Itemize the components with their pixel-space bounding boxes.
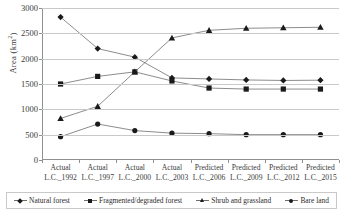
data-point-marker [95,74,100,79]
gridline [42,84,339,85]
plot-inner: 050010001500200025003000 [42,8,339,160]
x-axis-category-label: PredictedL.C._2006 [191,163,228,187]
y-axis-tick-label: 3000 [21,4,38,13]
gridline [42,109,339,110]
chart-root: Area (km2) 050010001500200025003000 Actu… [0,0,343,213]
y-axis-title: Area (km2) [7,3,21,103]
legend-item-3[interactable]: Shrub and grassland [196,196,271,205]
legend-key-mark [289,199,293,203]
x-axis-category-label: ActualL.C._1992 [42,163,79,187]
x-axis-category-label: PredictedL.C._2009 [228,163,265,187]
data-point-marker [132,128,137,133]
x-axis-category-line: Predicted [191,163,228,173]
x-axis-category-line: L.C._2006 [191,173,228,183]
x-axis-tick-mark [339,160,340,163]
y-axis-tick-mark [39,135,42,136]
chart-legend: Natural forestFragmented/degraded forest… [6,192,337,209]
legend-item-label: Fragmented/degraded forest [99,196,182,205]
y-axis-tick-label: 1000 [21,105,38,114]
data-point-marker [95,121,100,126]
data-point-marker [280,77,286,83]
gridline [42,8,339,9]
gridline [42,135,339,136]
x-axis-category-line: Actual [116,163,153,173]
data-point-marker [318,86,323,91]
y-axis-tick-label: 2000 [21,55,38,64]
x-axis-category-label: ActualL.C._1997 [79,163,116,187]
gridline [42,33,339,34]
data-point-marker [317,77,323,83]
data-point-marker [206,76,212,82]
gridline [42,59,339,60]
legend-item-label: Natural forest [29,196,70,205]
x-axis-labels: ActualL.C._1992ActualL.C._1997ActualL.C.… [42,163,339,187]
legend-item-label: Shrub and grassland [211,196,271,205]
square-marker-icon [84,197,97,204]
x-axis-category-line: Predicted [228,163,265,173]
legend-item-label: Bare land [300,196,329,205]
data-point-marker [206,85,211,90]
y-axis-tick-label: 500 [25,131,38,140]
legend-key-mark [88,199,92,203]
legend-key-mark [200,198,204,202]
x-axis-category-label: ActualL.C._2003 [153,163,190,187]
y-axis-tick-mark [39,84,42,85]
x-axis-category-line: Actual [42,163,79,173]
series-line [61,27,321,118]
series-4 [58,121,323,139]
x-axis-category-line: Predicted [302,163,339,173]
y-axis-title-text: Area (km [8,39,18,74]
x-axis-category-line: L.C._2000 [116,173,153,183]
y-axis-tick-label: 0 [34,156,38,165]
legend-key-mark [17,198,23,204]
y-axis-tick-label: 1500 [21,80,38,89]
x-axis-category-line: Actual [79,163,116,173]
y-axis-tick-mark [39,8,42,9]
x-axis-category-line: L.C._2012 [265,173,302,183]
series-1 [57,14,323,84]
y-axis-tick-mark [39,59,42,60]
triangle-marker-icon [196,197,209,204]
legend-item-1[interactable]: Natural forest [14,196,70,205]
x-axis-category-line: L.C._1997 [79,173,116,183]
legend-item-2[interactable]: Fragmented/degraded forest [84,196,182,205]
data-point-marker [243,77,249,83]
y-axis-tick-label: 2500 [21,29,38,38]
y-axis-tick-mark [39,33,42,34]
data-point-marker [169,78,174,83]
data-point-marker [281,86,286,91]
x-axis-category-label: PredictedL.C._2015 [302,163,339,187]
circle-marker-icon [285,197,298,204]
series-3 [57,24,323,121]
y-axis-title-superscript: 2 [7,36,13,39]
plot-area: 050010001500200025003000 [42,8,339,160]
x-axis-category-label: ActualL.C._2000 [116,163,153,187]
x-axis-category-line: L.C._1992 [42,173,79,183]
y-axis-title-tail: ) [8,32,18,35]
x-axis-category-line: L.C._2009 [228,173,265,183]
x-axis-category-line: L.C._2015 [302,173,339,183]
diamond-marker-icon [14,197,27,204]
x-axis-category-line: Predicted [265,163,302,173]
x-axis-category-label: PredictedL.C._2012 [265,163,302,187]
y-axis-tick-mark [39,109,42,110]
x-axis-category-line: L.C._2003 [153,173,190,183]
x-axis-category-line: Actual [153,163,190,173]
data-point-marker [244,86,249,91]
legend-item-4[interactable]: Bare land [285,196,329,205]
